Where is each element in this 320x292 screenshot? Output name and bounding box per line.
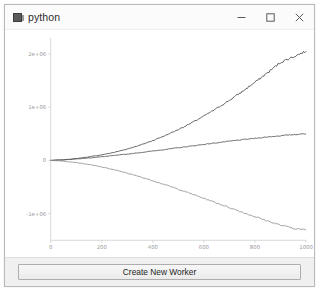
plot-spines xyxy=(51,38,306,240)
maximize-button[interactable] xyxy=(256,5,285,29)
x-axis-ticks: 02004006008001000 xyxy=(49,240,313,250)
python-app-icon xyxy=(13,13,22,22)
window-title: python xyxy=(28,11,60,23)
data-series-layer xyxy=(51,51,306,230)
y-tick-label: -1e+06 xyxy=(26,211,47,217)
window-title-bar[interactable]: python xyxy=(5,5,314,30)
x-tick-label: 1000 xyxy=(299,244,313,250)
x-tick-label: 200 xyxy=(97,244,108,250)
y-axis-ticks: -1e+0601e+062e+06 xyxy=(26,51,50,217)
x-tick-label: 600 xyxy=(199,244,210,250)
python-app-window: python xyxy=(4,4,315,287)
x-tick-label: 800 xyxy=(250,244,261,250)
create-new-worker-button[interactable]: Create New Worker xyxy=(18,264,301,280)
x-tick-label: 0 xyxy=(49,244,53,250)
bottom-toolbar: Create New Worker xyxy=(5,257,314,286)
plot-svg: 02004006008001000 -1e+0601e+062e+06 xyxy=(5,30,314,257)
matplotlib-plot-canvas: 02004006008001000 -1e+0601e+062e+06 xyxy=(5,30,314,257)
y-tick-label: 1e+06 xyxy=(28,104,47,110)
series-line-worker-3 xyxy=(51,160,306,230)
close-button[interactable] xyxy=(285,5,314,29)
y-tick-label: 0 xyxy=(43,157,47,163)
minimize-button[interactable] xyxy=(227,5,256,29)
x-tick-label: 400 xyxy=(148,244,159,250)
y-tick-label: 2e+06 xyxy=(28,51,47,57)
series-line-worker-1 xyxy=(51,51,306,160)
window-controls xyxy=(227,5,314,29)
